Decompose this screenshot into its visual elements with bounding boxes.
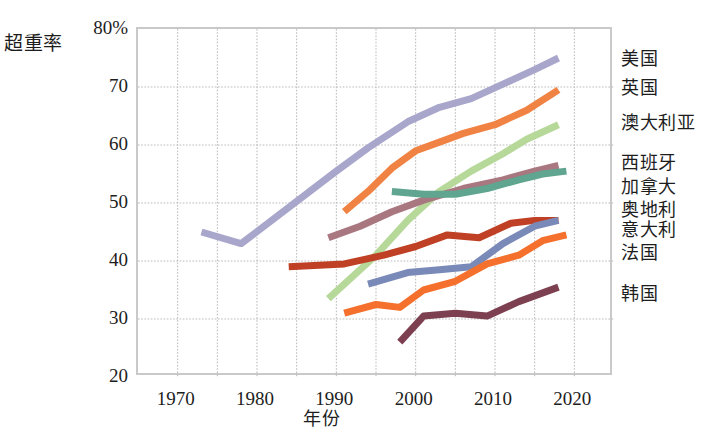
series-label-加拿大: 加拿大 [621, 178, 677, 196]
chart-container: 超重率 20304050607080% 19701980199020002010… [0, 0, 713, 438]
plot-area [136, 27, 612, 375]
y-axis-tick-label: 50 [66, 192, 128, 211]
series-line-8 [400, 287, 559, 342]
y-axis-title: 超重率 [4, 28, 90, 55]
y-axis-tick-label: 30 [66, 308, 128, 327]
y-axis-tick-label: 40 [66, 250, 128, 269]
y-axis-tick-label: 70 [66, 76, 128, 95]
data-layer [138, 29, 614, 377]
y-axis-tick-label: 20 [66, 366, 128, 385]
series-label-意大利: 意大利 [621, 221, 677, 239]
y-axis-tick-label: 60 [66, 134, 128, 153]
series-label-澳大利亚: 澳大利亚 [621, 114, 695, 132]
series-label-西班牙: 西班牙 [621, 154, 677, 172]
series-label-奥地利: 奥地利 [621, 201, 677, 219]
x-axis-title: 年份 [0, 404, 713, 430]
series-line-5 [289, 220, 559, 266]
series-label-法国: 法国 [621, 244, 658, 262]
series-line-7 [344, 235, 566, 313]
x-axis-title-text: 年份 [303, 404, 341, 430]
series-label-美国: 美国 [621, 50, 658, 68]
series-label-英国: 英国 [621, 79, 658, 97]
series-label-韩国: 韩国 [621, 285, 658, 303]
